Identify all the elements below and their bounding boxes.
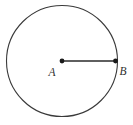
figure-background — [0, 0, 133, 125]
point-a-label: A — [47, 66, 56, 78]
point-a-marker — [60, 59, 65, 64]
circle-radius-figure: A B — [0, 0, 133, 125]
geometry-diagram-svg: A B — [0, 0, 133, 125]
point-b-marker — [113, 59, 118, 64]
point-b-label: B — [119, 65, 126, 77]
